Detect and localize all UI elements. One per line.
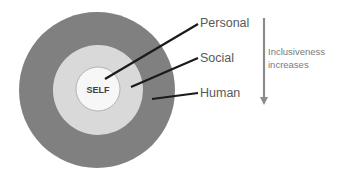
- social-label: Social: [200, 51, 234, 65]
- self-label: SELF: [86, 83, 110, 97]
- inclusiveness-text-line2: increases: [268, 58, 309, 71]
- human-label: Human: [200, 86, 240, 100]
- arrow-down-icon: [260, 97, 268, 105]
- concentric-circles-diagram: [0, 0, 339, 173]
- personal-label: Personal: [200, 16, 249, 30]
- inclusiveness-text-line1: Inclusiveness: [268, 45, 325, 58]
